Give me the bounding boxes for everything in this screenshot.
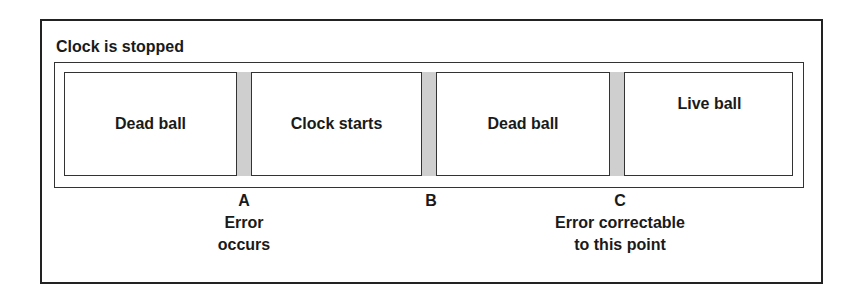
- marker-c-letter: C: [555, 190, 685, 212]
- marker-c-text-line2: to this point: [555, 234, 685, 256]
- separator-a: [236, 72, 252, 176]
- segment-dead-ball-1: Dead ball: [65, 73, 236, 175]
- segment-live-ball: Live ball: [625, 73, 794, 175]
- marker-a-text-line1: Error: [218, 212, 270, 234]
- timeline-bar: Dead ball Clock starts Dead ball Live ba…: [64, 72, 793, 176]
- segment-dead-ball-2: Dead ball: [437, 73, 609, 175]
- marker-a-letter: A: [218, 190, 270, 212]
- marker-c: C Error correctable to this point: [555, 190, 685, 256]
- marker-c-text-line1: Error correctable: [555, 212, 685, 234]
- marker-a-text-line2: occurs: [218, 234, 270, 256]
- separator-c: [609, 72, 625, 176]
- marker-b: B: [425, 190, 437, 212]
- marker-a: A Error occurs: [218, 190, 270, 256]
- diagram-title: Clock is stopped: [56, 38, 184, 56]
- segment-clock-starts: Clock starts: [252, 73, 421, 175]
- separator-b: [421, 72, 437, 176]
- marker-b-letter: B: [425, 190, 437, 212]
